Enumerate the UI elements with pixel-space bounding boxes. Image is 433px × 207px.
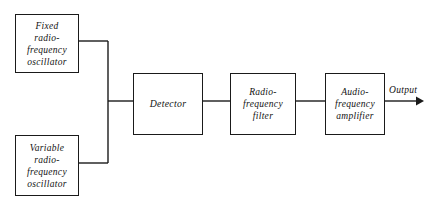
output-arrowhead-icon bbox=[416, 97, 424, 106]
block-rf-filter-label: Radio-frequency filter bbox=[231, 86, 295, 122]
block-detector-label: Detector bbox=[147, 98, 190, 110]
block-variable-oscillator-label: Variable radio-frequency oscillator bbox=[16, 142, 78, 190]
block-af-amplifier: Audio-frequency amplifier bbox=[325, 73, 385, 135]
output-label: Output bbox=[389, 84, 417, 96]
block-detector: Detector bbox=[133, 73, 203, 135]
block-variable-oscillator: Variable radio-frequency oscillator bbox=[15, 135, 79, 196]
block-fixed-oscillator: Fixed radio-frequency oscillator bbox=[15, 14, 79, 73]
block-af-amplifier-label: Audio-frequency amplifier bbox=[326, 86, 384, 122]
block-fixed-oscillator-label: Fixed radio-frequency oscillator bbox=[16, 20, 78, 68]
block-rf-filter: Radio-frequency filter bbox=[230, 73, 296, 135]
block-diagram: Fixed radio-frequency oscillator Variabl… bbox=[0, 0, 433, 207]
